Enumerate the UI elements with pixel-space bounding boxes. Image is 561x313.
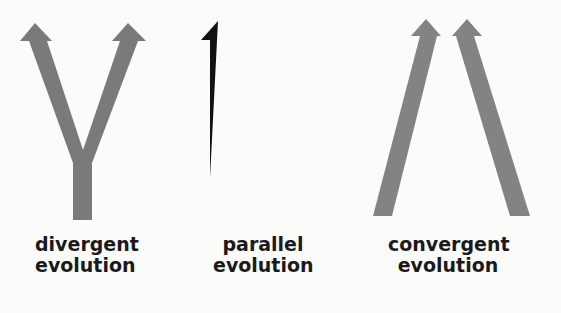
convergent-arrows-icon (373, 19, 530, 216)
divergent-label-line1: divergent (35, 234, 139, 255)
divergent-evolution-label: divergent evolution (35, 234, 139, 276)
parallel-evolution-label: parallel evolution (213, 234, 313, 276)
parallel-arrow-icon (201, 21, 218, 178)
convergent-evolution-label: convergent evolution (388, 234, 508, 276)
parallel-label-line2: evolution (213, 255, 313, 276)
convergent-label-line1: convergent (388, 234, 508, 255)
convergent-label-line2: evolution (388, 255, 508, 276)
parallel-label-line1: parallel (213, 234, 313, 255)
divergent-arrow-icon (20, 23, 146, 220)
divergent-label-line2: evolution (35, 255, 139, 276)
